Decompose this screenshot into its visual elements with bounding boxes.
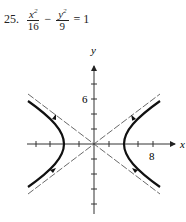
hyperbola-graph: x y 6 8 <box>0 0 186 222</box>
y-axis-label: y <box>90 44 96 56</box>
x-tick-label-8: 8 <box>149 150 155 162</box>
x-axis-label: x <box>179 138 185 150</box>
y-tick-label-6: 6 <box>82 93 88 105</box>
